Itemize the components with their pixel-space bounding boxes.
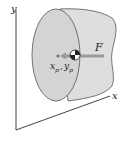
fluid-pressure-diagram: y x F x p , y p: [0, 0, 127, 141]
centroid-dot: [56, 54, 59, 57]
svg-text:p: p: [55, 66, 59, 74]
svg-text:p: p: [69, 66, 73, 74]
x-axis-label: x: [112, 90, 118, 101]
center-of-pressure-icon: [70, 50, 80, 60]
y-axis-label: y: [10, 3, 17, 14]
force-label: F: [94, 41, 103, 54]
svg-text:,: ,: [60, 61, 63, 71]
